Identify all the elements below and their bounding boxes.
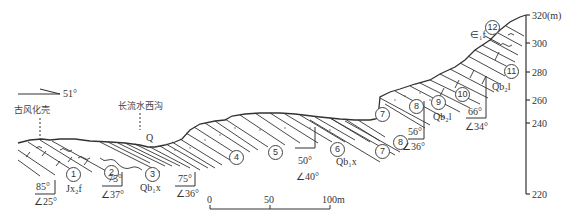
elevation-tick-300: 300	[532, 38, 547, 49]
attitude-1-dipdir: 85°	[36, 182, 50, 192]
scale-bar	[210, 205, 330, 209]
layer-11-marker: 11	[504, 64, 519, 79]
elevation-tick-220: 220	[532, 189, 547, 200]
elevation-tick-280: 280	[532, 67, 547, 78]
attitude-2-dip: ∠37°	[101, 190, 124, 200]
formation-qb1x-a: Qb₁x	[140, 183, 161, 193]
attitude-4-dip: ∠40°	[296, 172, 319, 182]
orientation-arrow-icon	[18, 89, 60, 94]
elevation-tick-260: 260	[532, 95, 547, 106]
scale-label-0: 0	[207, 194, 212, 205]
quaternary-label: Q	[146, 133, 153, 143]
attitude-5-dip: ∠36°	[402, 142, 425, 152]
formation-qb2l-a: Qb₂l	[433, 112, 452, 122]
layer-12-marker: 12	[485, 20, 500, 35]
elevation-tick-320: 320(m)	[532, 10, 561, 21]
scale-label-100m: 100m	[322, 194, 345, 205]
layer-7a-marker: 7	[375, 107, 390, 122]
paleo-weathering-crust-label: 古风化壳	[14, 106, 50, 115]
formation-qb1x-b: Qb₁x	[336, 157, 357, 167]
formation-jx2f: Jx₂f	[66, 184, 82, 194]
attitude-3-dip: ∠36°	[176, 189, 199, 199]
layer-8a-marker: 8	[409, 99, 424, 114]
orientation-label: 51°	[63, 89, 77, 99]
stream-valley-label: 长流水西沟	[118, 102, 163, 111]
layer-5-marker: 5	[268, 145, 283, 160]
layer-3-marker: 3	[145, 167, 160, 182]
layer-4-marker: 4	[229, 150, 244, 165]
layer-7b-marker: 7	[375, 144, 390, 159]
scale-label-50: 50	[264, 194, 274, 205]
attitude-2-dipdir: 75°	[108, 174, 122, 184]
cambrian-label: ∈₁f	[470, 30, 486, 40]
attitude-4-dipdir: 50°	[298, 156, 312, 166]
elevation-tick-240: 240	[532, 118, 547, 129]
formation-qb2l-b: Qb₂l	[492, 82, 511, 92]
layers-7-11-bedding	[380, 26, 524, 128]
elevation-axis	[526, 15, 530, 194]
topographic-profile	[18, 15, 526, 147]
layer-1-marker: 1	[66, 167, 81, 182]
layer-9-marker: 9	[431, 95, 446, 110]
layer-10-marker: 10	[455, 87, 470, 102]
attitude-6-dip: ∠34°	[465, 122, 488, 132]
attitude-1-dip: ∠25°	[34, 197, 57, 207]
attitude-6-dipdir: 66°	[468, 107, 482, 117]
attitude-3-dipdir: 75°	[178, 174, 192, 184]
layer-6-marker: 6	[330, 142, 345, 157]
attitude-5-dipdir: 56°	[408, 127, 422, 137]
